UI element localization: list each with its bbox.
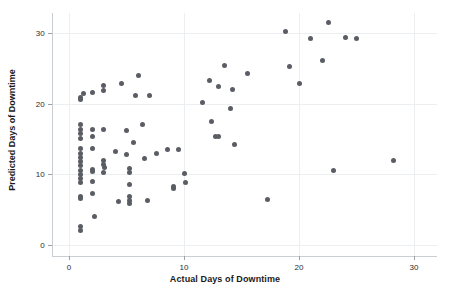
scatter-point	[119, 81, 124, 86]
scatter-point	[176, 147, 181, 152]
x-axis-spine	[52, 256, 437, 257]
y-tick-mark	[48, 245, 52, 246]
scatter-point	[78, 180, 83, 185]
scatter-point	[265, 197, 270, 202]
gridline-horizontal	[52, 33, 437, 34]
scatter-point	[245, 71, 250, 76]
scatter-point	[142, 156, 147, 161]
x-tick-label: 30	[410, 263, 419, 272]
scatter-point	[78, 136, 83, 141]
scatter-point	[209, 119, 214, 124]
scatter-point	[171, 186, 176, 191]
scatter-point	[308, 36, 313, 41]
scatter-point	[113, 149, 118, 154]
y-axis-spine	[52, 13, 53, 256]
gridline-horizontal	[52, 104, 437, 105]
y-axis-label: Predicted Days of Downtime	[7, 69, 17, 191]
scatter-point	[136, 73, 141, 78]
y-axis-label-container: Predicted Days of Downtime	[0, 0, 24, 260]
scatter-point	[81, 91, 86, 96]
scatter-point	[354, 36, 359, 41]
x-tick-mark	[69, 256, 70, 260]
scatter-point	[207, 78, 212, 83]
scatter-point	[140, 122, 145, 127]
scatter-point	[127, 201, 132, 206]
x-tick-label: 20	[295, 263, 304, 272]
scatter-point	[102, 165, 107, 170]
scatter-point	[145, 198, 150, 203]
x-axis-label: Actual Days of Downtime	[0, 274, 450, 284]
scatter-point	[230, 87, 235, 92]
gridline-horizontal	[52, 245, 437, 246]
scatter-point	[183, 180, 188, 185]
scatter-point	[182, 171, 187, 176]
scatter-point	[216, 134, 221, 139]
scatter-point	[90, 90, 95, 95]
scatter-point	[90, 127, 95, 132]
scatter-point	[200, 100, 205, 105]
scatter-point	[90, 146, 95, 151]
scatter-point	[101, 88, 106, 93]
gridline-horizontal	[52, 174, 437, 175]
scatter-point	[78, 97, 83, 102]
scatter-point	[287, 64, 292, 69]
scatter-point	[222, 63, 227, 68]
gridline-vertical	[69, 13, 70, 256]
scatter-point	[90, 191, 95, 196]
scatter-point	[165, 147, 170, 152]
y-tick-mark	[48, 33, 52, 34]
scatter-point	[78, 196, 83, 201]
x-tick-mark	[299, 256, 300, 260]
scatter-point	[90, 134, 95, 139]
scatter-point	[78, 122, 83, 127]
scatter-point	[131, 140, 136, 145]
x-tick-mark	[414, 256, 415, 260]
scatter-point	[90, 179, 95, 184]
scatter-point	[101, 127, 106, 132]
scatter-point	[78, 228, 83, 233]
scatter-point	[283, 29, 288, 34]
scatter-point	[326, 20, 331, 25]
y-tick-mark	[48, 104, 52, 105]
gridline-vertical	[299, 13, 300, 256]
scatter-point	[320, 58, 325, 63]
x-tick-mark	[184, 256, 185, 260]
x-tick-label: 0	[67, 263, 71, 272]
scatter-point	[297, 81, 302, 86]
scatter-point	[147, 93, 152, 98]
scatter-point	[232, 142, 237, 147]
scatter-point	[127, 182, 132, 187]
scatter-point	[391, 158, 396, 163]
scatter-point	[124, 128, 129, 133]
y-tick-mark	[48, 174, 52, 175]
scatter-point	[154, 151, 159, 156]
scatter-chart-figure: 01020300102030 Predicted Days of Downtim…	[0, 0, 450, 301]
scatter-point	[228, 106, 233, 111]
scatter-point	[133, 93, 138, 98]
scatter-point	[216, 84, 221, 89]
scatter-point	[343, 35, 348, 40]
gridline-vertical	[414, 13, 415, 256]
scatter-point	[90, 169, 95, 174]
scatter-point	[331, 168, 336, 173]
gridline-vertical	[184, 13, 185, 256]
plot-area: 01020300102030	[0, 0, 450, 301]
scatter-point	[92, 214, 97, 219]
scatter-point	[124, 152, 129, 157]
scatter-point	[116, 199, 121, 204]
x-tick-label: 10	[180, 263, 189, 272]
